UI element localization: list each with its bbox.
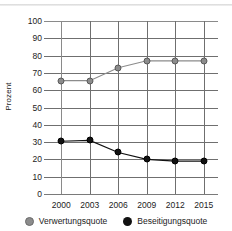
data-point-verwertungsquote-2009 bbox=[143, 57, 150, 64]
legend-label: Beseitigungsquote bbox=[137, 216, 207, 226]
series-line-beseitigungsquote bbox=[61, 140, 204, 161]
data-point-beseitigungsquote-2012 bbox=[172, 158, 179, 165]
legend-item-beseitigungsquote: Beseitigungsquote bbox=[123, 216, 207, 226]
y-tick-label-30: 30 bbox=[12, 137, 42, 147]
x-tick-label-2003: 2003 bbox=[80, 200, 99, 210]
plot-area: 0102030405060708090100 20002003200620092… bbox=[47, 21, 218, 194]
x-tick-label-2000: 2000 bbox=[52, 200, 71, 210]
x-tick-label-2006: 2006 bbox=[109, 200, 128, 210]
y-tick-label-100: 100 bbox=[12, 16, 42, 26]
y-tick-label-90: 90 bbox=[12, 33, 42, 43]
y-tick-label-10: 10 bbox=[12, 172, 42, 182]
data-point-beseitigungsquote-2003 bbox=[86, 137, 93, 144]
y-tick-label-70: 70 bbox=[12, 68, 42, 78]
series-lines bbox=[47, 21, 218, 194]
data-point-verwertungsquote-2012 bbox=[172, 57, 179, 64]
circle-gray-icon bbox=[25, 217, 34, 226]
data-point-verwertungsquote-2006 bbox=[115, 64, 122, 71]
x-tick-label-2009: 2009 bbox=[137, 200, 156, 210]
data-point-verwertungsquote-2015 bbox=[200, 57, 207, 64]
data-point-beseitigungsquote-2009 bbox=[143, 156, 150, 163]
chart-legend: VerwertungsquoteBeseitigungsquote bbox=[0, 216, 232, 226]
chart-page: Prozent 0102030405060708090100 200020032… bbox=[0, 0, 232, 231]
legend-item-verwertungsquote: Verwertungsquote bbox=[25, 216, 108, 226]
y-tick-label-80: 80 bbox=[12, 51, 42, 61]
x-tick-label-2015: 2015 bbox=[194, 200, 213, 210]
legend-label: Verwertungsquote bbox=[39, 216, 108, 226]
data-point-beseitigungsquote-2006 bbox=[115, 149, 122, 156]
y-tick-label-40: 40 bbox=[12, 120, 42, 130]
y-tick-label-20: 20 bbox=[12, 154, 42, 164]
top-divider bbox=[0, 4, 232, 6]
x-tick-label-2012: 2012 bbox=[166, 200, 185, 210]
gridline-y-0 bbox=[44, 194, 218, 195]
y-tick-label-60: 60 bbox=[12, 85, 42, 95]
circle-black-icon bbox=[123, 217, 132, 226]
data-point-verwertungsquote-2000 bbox=[58, 77, 65, 84]
data-point-beseitigungsquote-2015 bbox=[200, 158, 207, 165]
y-tick-label-50: 50 bbox=[12, 103, 42, 113]
series-line-verwertungsquote bbox=[61, 61, 204, 81]
data-point-verwertungsquote-2003 bbox=[86, 77, 93, 84]
data-point-beseitigungsquote-2000 bbox=[58, 138, 65, 145]
y-tick-label-0: 0 bbox=[12, 189, 42, 199]
